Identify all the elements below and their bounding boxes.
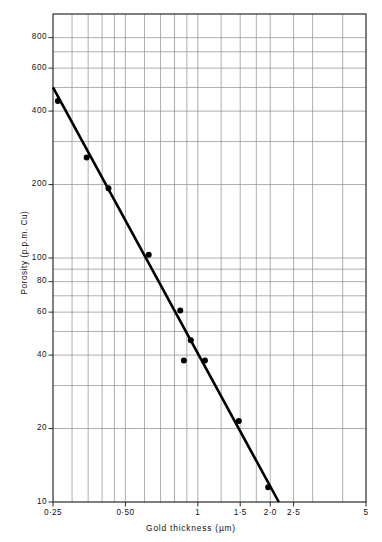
x-tick-label: 0·50 [105, 508, 145, 517]
x-tick-label: 5 [346, 508, 382, 517]
data-point [181, 358, 187, 364]
porosity-vs-gold-thickness-chart: 8006004002001008060402010 0·250·5011·52·… [0, 0, 382, 542]
y-axis-title: Porosity (p.p.m. Cu) [20, 173, 29, 333]
y-tick-label: 20 [8, 423, 47, 432]
y-tick-label: 400 [8, 106, 47, 115]
data-point [188, 337, 194, 343]
fit-line [53, 87, 279, 502]
x-tick-label: 1 [178, 508, 218, 517]
data-point [202, 358, 208, 364]
y-tick-label: 40 [8, 350, 47, 359]
data-point [84, 155, 90, 161]
x-axis-title: Gold thickness (µm) [0, 523, 382, 533]
data-point [236, 418, 242, 424]
chart-canvas [0, 0, 382, 542]
data-point [146, 252, 152, 258]
data-point [265, 484, 271, 490]
y-tick-label: 600 [8, 63, 47, 72]
horizontal-gridlines [53, 38, 366, 429]
data-point [177, 307, 183, 313]
y-tick-label: 800 [8, 32, 47, 41]
axis-tick-marks [49, 38, 367, 507]
regression-line [53, 87, 279, 502]
x-tick-label: 0·25 [33, 508, 73, 517]
data-points [55, 98, 271, 490]
x-tick-label: 2·5 [274, 508, 314, 517]
data-point [105, 185, 111, 191]
y-tick-label: 10 [8, 497, 47, 506]
data-point [55, 98, 61, 104]
